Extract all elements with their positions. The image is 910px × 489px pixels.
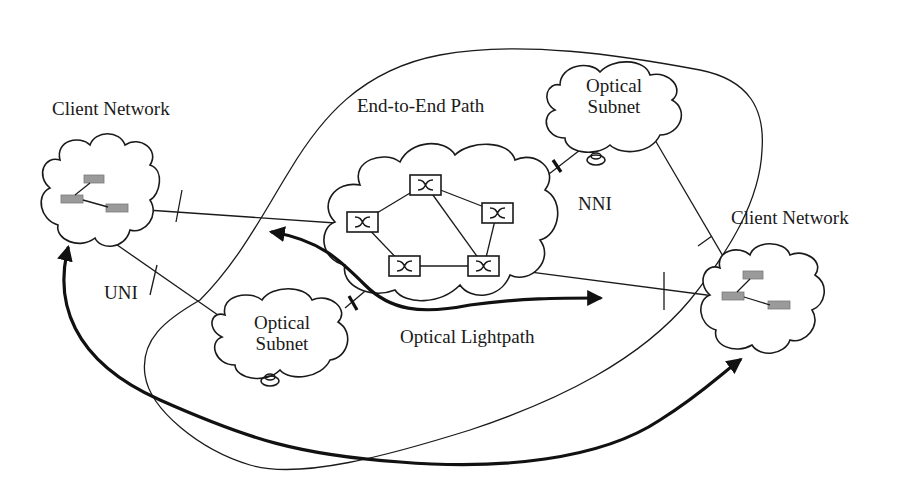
diagram-canvas: Client Network Client Network End-to-End… (0, 0, 910, 489)
optical-subnet-bottom-label: Optical Subnet (246, 312, 318, 354)
nni-label: NNI (578, 193, 612, 214)
optical-subnet-top-line1: Optical (578, 75, 650, 96)
optical-switch-icon (468, 256, 499, 276)
optical-lightpath-label: Optical Lightpath (400, 326, 535, 347)
diagram-graphics (0, 0, 910, 489)
client-network-right-cloud (701, 244, 824, 353)
optical-subnet-bottom-line1: Optical (246, 312, 318, 333)
router-icon (768, 301, 790, 309)
optical-subnet-bottom-line2: Subnet (246, 333, 318, 354)
optical-device-icon (587, 155, 605, 165)
end-to-end-path-label: End-to-End Path (357, 95, 484, 116)
optical-switch-icon (482, 203, 513, 223)
optical-subnet-top-line2: Subnet (578, 96, 650, 117)
optical-switch-icon (389, 256, 420, 276)
router-icon (61, 195, 83, 203)
optical-switch-icon (410, 175, 441, 195)
router-icon (722, 292, 744, 300)
optical-switch-icon (347, 212, 378, 232)
router-icon (106, 204, 128, 212)
optical-subnet-top-label: Optical Subnet (578, 75, 650, 117)
client-network-left-label: Client Network (52, 98, 170, 119)
client-network-right-label: Client Network (731, 207, 849, 228)
router-icon (84, 175, 104, 183)
router-icon (743, 271, 763, 279)
optical-device-icon (261, 376, 279, 386)
uni-label: UNI (104, 282, 138, 303)
client-network-left-cloud (41, 134, 159, 246)
